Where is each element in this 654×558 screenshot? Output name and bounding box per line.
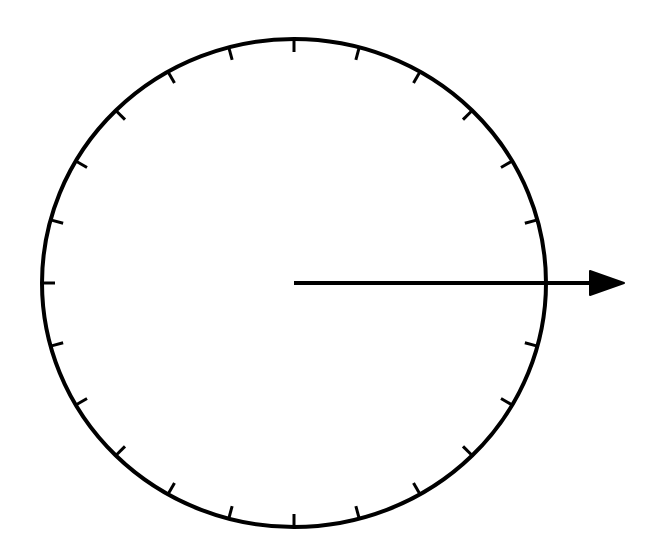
tick-mark xyxy=(501,161,512,168)
tick-mark xyxy=(229,506,232,519)
tick-mark xyxy=(525,220,538,223)
tick-mark xyxy=(525,343,538,346)
tick-mark xyxy=(76,161,87,168)
dial-diagram xyxy=(0,0,654,558)
tick-mark xyxy=(116,446,125,455)
tick-mark xyxy=(229,47,232,60)
tick-mark xyxy=(414,483,421,494)
tick-mark xyxy=(501,399,512,406)
tick-mark xyxy=(168,72,175,83)
tick-mark xyxy=(116,110,125,119)
tick-mark xyxy=(414,72,421,83)
tick-mark xyxy=(356,506,359,519)
tick-mark xyxy=(168,483,175,494)
tick-mark xyxy=(51,343,64,346)
tick-mark xyxy=(463,446,472,455)
tick-mark xyxy=(51,220,64,223)
arrow-head-icon xyxy=(590,271,624,295)
tick-mark xyxy=(463,110,472,119)
tick-mark xyxy=(356,47,359,60)
tick-mark xyxy=(76,399,87,406)
